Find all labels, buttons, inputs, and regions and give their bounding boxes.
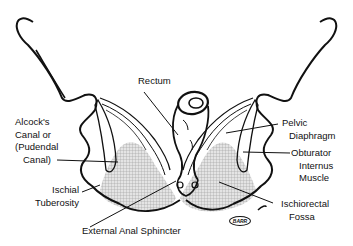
label-ischiorectal-fossa: Ischiorectal Fossa [281, 198, 329, 223]
anatomy-diagram: Rectum Alcock's Canal or (Pudendal Canal… [0, 0, 353, 246]
leader-rectum [144, 92, 178, 135]
label-ischial-tuberosity: Ischial Tuberosity [25, 184, 79, 209]
leader-obturator [243, 152, 290, 153]
label-pelvic-diaphragm: Pelvic Diaphragm [282, 117, 335, 142]
artist-signature: BARR [229, 216, 251, 226]
label-alcocks-canal: Alcock's Canal or (Pudendal Canal) [15, 116, 58, 166]
label-obturator-internus: Obturator Internus Muscle [291, 147, 333, 185]
label-rectum: Rectum [138, 75, 171, 88]
right-ischiorectal-fossa [180, 143, 256, 212]
leader-alcocks [57, 160, 118, 162]
label-external-anal-sphincter: External Anal Sphincter [82, 225, 181, 238]
